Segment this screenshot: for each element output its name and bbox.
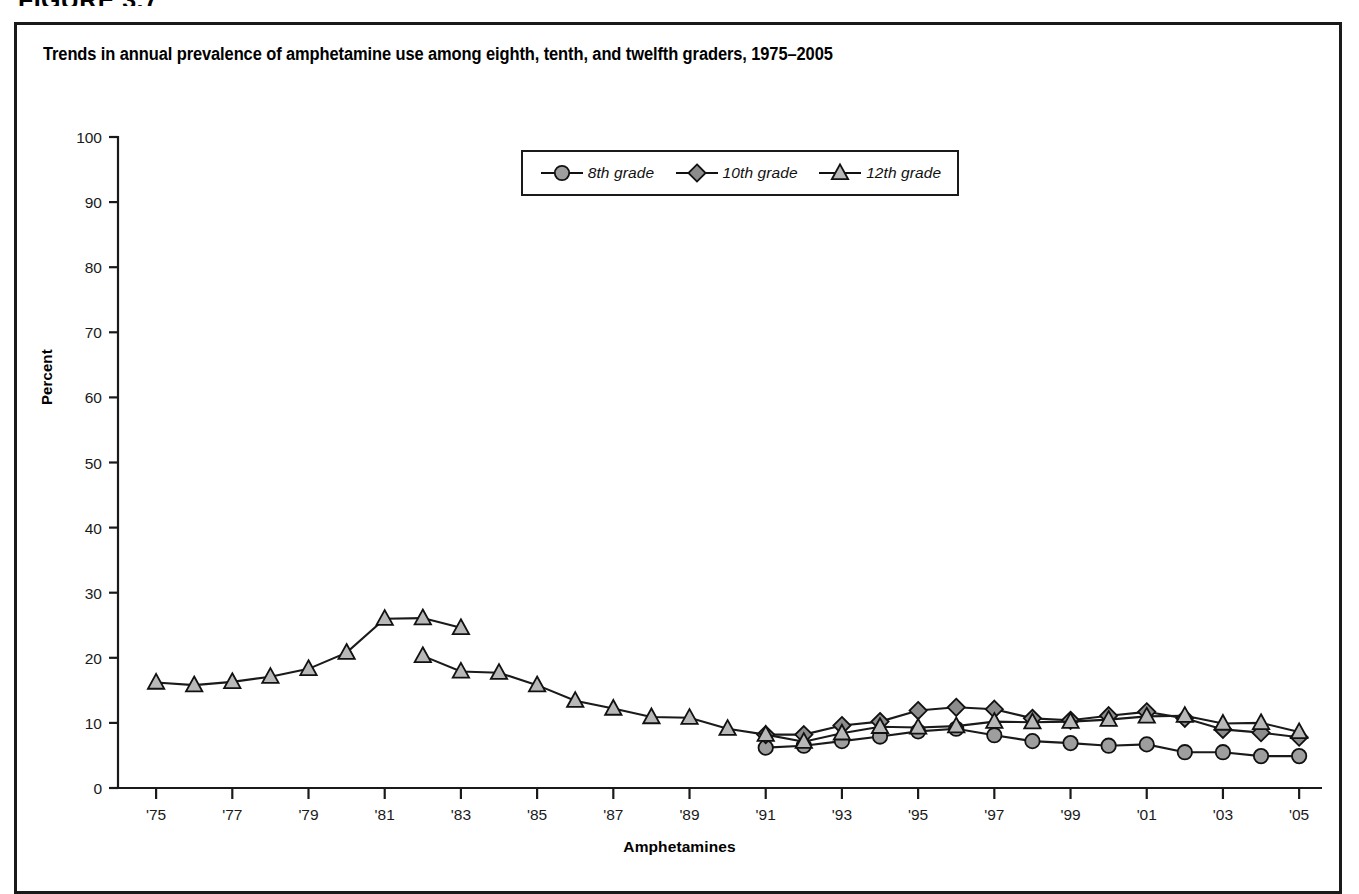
- x-tick-label: '87: [603, 806, 623, 823]
- x-tick-label: '77: [222, 806, 242, 823]
- diamond-marker: [688, 164, 705, 181]
- x-axis: '75'77'79'81'83'85'87'89'91'93'95'97'99'…: [118, 788, 1322, 823]
- y-tick-label: 40: [85, 520, 103, 537]
- x-tick-label: '97: [984, 806, 1004, 823]
- legend-label: 8th grade: [588, 164, 654, 182]
- circle-marker: [1254, 749, 1268, 763]
- y-tick-label: 20: [85, 650, 103, 667]
- diamond-marker: [910, 702, 927, 719]
- circle-marker: [555, 166, 569, 180]
- y-tick-label: 30: [85, 585, 103, 602]
- diamond-marker: [948, 699, 965, 716]
- triangle-marker: [567, 692, 583, 707]
- circle-marker: [1292, 749, 1306, 763]
- circle-marker: [1178, 745, 1192, 759]
- circle-marker: [1063, 736, 1077, 750]
- x-tick-label: '79: [298, 806, 318, 823]
- y-tick-label: 80: [85, 259, 103, 276]
- circle-marker: [1140, 737, 1154, 751]
- circle-marker: [1216, 745, 1230, 759]
- triangle-marker: [817, 162, 863, 184]
- triangle-marker: [415, 609, 431, 624]
- triangle-marker: [1253, 714, 1269, 729]
- x-tick-label: '85: [527, 806, 547, 823]
- chart-legend: 8th grade10th grade12th grade: [521, 150, 959, 196]
- x-tick-label: '01: [1137, 806, 1157, 823]
- y-tick-label: 70: [85, 324, 103, 341]
- triangle-marker: [300, 660, 316, 675]
- y-tick-label: 0: [93, 780, 102, 797]
- x-tick-label: '83: [451, 806, 471, 823]
- legend-item-10th-grade[interactable]: 10th grade: [674, 162, 798, 184]
- y-tick-label: 90: [85, 194, 103, 211]
- x-tick-label: '03: [1213, 806, 1233, 823]
- y-tick-label: 50: [85, 455, 103, 472]
- triangle-marker: [415, 647, 431, 662]
- x-tick-label: '95: [908, 806, 928, 823]
- triangle-marker: [453, 663, 469, 678]
- circle-marker: [987, 728, 1001, 742]
- y-tick-label: 100: [76, 129, 102, 146]
- triangle-marker: [832, 164, 848, 179]
- diamond-marker: [674, 162, 720, 184]
- legend-item-12th-grade[interactable]: 12th grade: [817, 162, 941, 184]
- x-tick-label: '81: [375, 806, 395, 823]
- circle-marker: [1101, 738, 1115, 752]
- x-tick-label: '99: [1060, 806, 1080, 823]
- triangle-marker: [986, 713, 1002, 728]
- x-tick-label: '93: [832, 806, 852, 823]
- x-tick-label: '75: [146, 806, 166, 823]
- legend-label: 12th grade: [866, 164, 941, 182]
- triangle-marker: [148, 674, 164, 689]
- legend-label: 10th grade: [723, 164, 798, 182]
- y-tick-label: 10: [85, 715, 103, 732]
- x-axis-label: Amphetamines: [0, 838, 1359, 856]
- triangle-marker: [377, 610, 393, 625]
- y-tick-label: 60: [85, 389, 103, 406]
- y-axis: 0102030405060708090100: [76, 129, 118, 797]
- data-series-group: [148, 609, 1308, 763]
- circle-marker: [1025, 734, 1039, 748]
- x-tick-label: '05: [1289, 806, 1309, 823]
- x-tick-label: '89: [679, 806, 699, 823]
- triangle-marker: [681, 709, 697, 724]
- series-triangle: [415, 647, 1308, 748]
- legend-item-8th-grade[interactable]: 8th grade: [539, 162, 654, 184]
- x-tick-label: '91: [756, 806, 776, 823]
- circle-marker: [539, 162, 585, 184]
